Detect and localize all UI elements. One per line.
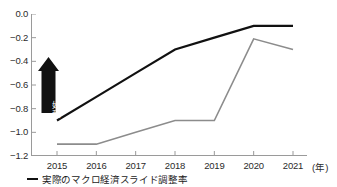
x-axis-tick-label: 2015: [37, 160, 77, 171]
x-axis-tick-label: 2017: [116, 160, 156, 171]
series-line-secondary: [57, 39, 293, 144]
x-axis-tick-label: 2016: [76, 160, 116, 171]
y-axis-tick-label: −0.8: [0, 103, 28, 114]
x-axis-unit-label: (年): [312, 160, 328, 174]
legend-label-primary: 実際のマクロ経済スライド調整率: [42, 172, 188, 186]
legend-marker-primary: [27, 178, 38, 181]
chart-page: 0.0−0.2−0.4−0.6−0.8−1.0−1.2 201520162017…: [0, 0, 337, 187]
x-axis-tick-label: 2018: [155, 160, 195, 171]
y-axis-ticks: [32, 14, 37, 156]
x-axis-ticks: [57, 151, 293, 156]
y-axis-tick-label: 0.0: [0, 8, 28, 19]
y-axis-tick-label: −0.6: [0, 79, 28, 90]
x-axis-tick-label: 2020: [234, 160, 274, 171]
improvement-arrow-annotation: 好転: [38, 57, 59, 113]
arrow-label: 好転: [38, 95, 59, 125]
arrow-label-box: 好転: [38, 75, 59, 109]
y-axis-tick-label: −0.2: [0, 32, 28, 43]
y-axis-tick-label: −1.2: [0, 150, 28, 161]
y-axis-tick-label: −0.4: [0, 55, 28, 66]
plot-area: [31, 14, 307, 156]
y-axis-tick-label: −1.0: [0, 126, 28, 137]
x-axis-tick-label: 2019: [194, 160, 234, 171]
legend: 実際のマクロ経済スライド調整率: [27, 172, 188, 186]
line-chart-svg: [31, 14, 307, 156]
x-axis-tick-label: 2021: [273, 160, 313, 171]
